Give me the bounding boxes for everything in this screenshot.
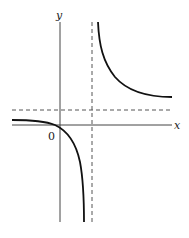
x-axis-label: x	[174, 119, 181, 132]
right-branch-curve	[98, 22, 172, 97]
origin-label: 0	[48, 130, 55, 143]
hyperbola-graph: y x 0	[0, 0, 189, 238]
y-axis-label: y	[55, 9, 63, 22]
